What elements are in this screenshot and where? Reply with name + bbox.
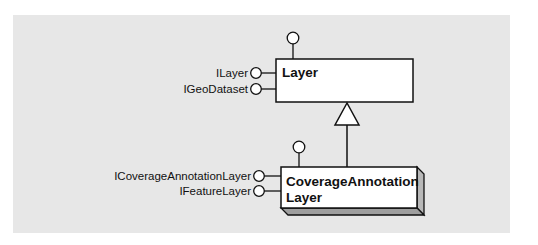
- lollipop-interface-icon: [293, 141, 305, 167]
- lollipop-interface-icon: [251, 68, 262, 79]
- class-name-line-2: Layer: [286, 190, 323, 205]
- interface-igeodataset[interactable]: IGeoDataset: [183, 83, 276, 95]
- lollipop-interface-icon: [254, 186, 265, 197]
- interface-ifeaturelayer[interactable]: IFeatureLayer: [179, 185, 281, 197]
- class-name-line-1: CoverageAnnotation: [286, 174, 419, 189]
- uml-diagram: Layer ILayer IGeoDataset CoverageAnnotat…: [0, 0, 538, 245]
- interface-label: ICoverageAnnotationLayer: [114, 170, 251, 182]
- inheritance-arrow: [335, 103, 359, 167]
- interface-icoverageannotationlayer[interactable]: ICoverageAnnotationLayer: [114, 170, 281, 182]
- lollipop-interface-icon: [287, 32, 299, 59]
- inheritance-triangle-icon: [335, 103, 359, 125]
- lollipop-interface-icon: [251, 84, 262, 95]
- class-name-layer: Layer: [282, 65, 319, 80]
- lollipop-interface-icon: [254, 171, 265, 182]
- class-layer[interactable]: Layer: [276, 32, 413, 102]
- interface-label: ILayer: [216, 67, 248, 79]
- interface-label: IFeatureLayer: [179, 185, 251, 197]
- interface-label: IGeoDataset: [183, 83, 248, 95]
- class-coverage-annotation-layer[interactable]: CoverageAnnotation Layer: [281, 141, 424, 215]
- interface-ilayer[interactable]: ILayer: [216, 67, 276, 79]
- box-3d-bottom-face: [281, 208, 424, 215]
